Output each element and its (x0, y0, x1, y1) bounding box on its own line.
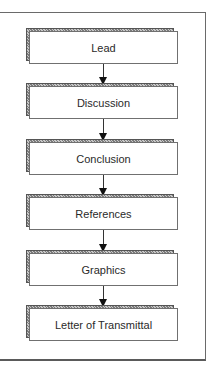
node-references: References (26, 194, 178, 230)
node-label: Lead (91, 42, 115, 54)
node-box: Graphics (29, 253, 178, 286)
node-conclusion: Conclusion (26, 139, 178, 175)
arrow-down-icon (103, 119, 105, 141)
node-lead: Lead (26, 28, 178, 64)
node-label: Discussion (77, 97, 130, 109)
node-box: References (29, 197, 178, 230)
node-box: Conclusion (29, 142, 178, 175)
node-box: Lead (29, 31, 178, 64)
node-label: References (75, 208, 131, 220)
node-label: Graphics (81, 264, 125, 276)
node-letter-of-transmittal: Letter of Transmittal (26, 305, 178, 341)
node-graphics: Graphics (26, 250, 178, 286)
node-box: Letter of Transmittal (29, 308, 178, 341)
node-label: Conclusion (76, 153, 130, 165)
node-label: Letter of Transmittal (55, 319, 152, 331)
node-box: Discussion (29, 86, 178, 119)
arrow-down-icon (103, 230, 105, 252)
node-discussion: Discussion (26, 83, 178, 119)
